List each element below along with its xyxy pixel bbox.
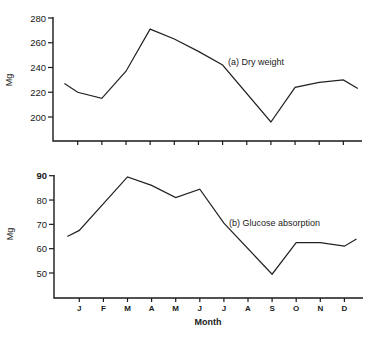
month-label: N: [317, 304, 323, 313]
y-tick-label: 260: [30, 37, 46, 48]
y-tick-label: 280: [30, 13, 46, 24]
y-axis-title-b: Mg: [5, 228, 15, 241]
month-label: A: [245, 304, 251, 313]
month-label: S: [269, 304, 275, 313]
month-label: O: [293, 304, 299, 313]
y-tick-label: 50: [36, 268, 47, 279]
month-label: D: [342, 304, 348, 313]
y-axis-title-a: Mg: [4, 74, 14, 87]
y-tick-label: 90: [36, 170, 47, 181]
month-label: M: [172, 304, 179, 313]
y-tick-label: 70: [36, 219, 47, 230]
month-label: M: [124, 304, 131, 313]
month-label: J: [77, 304, 81, 313]
series-label-glucose-absorption: (b) Glucose absorption: [229, 218, 320, 228]
month-label: F: [101, 304, 106, 313]
series-label-dry-weight: (a) Dry weight: [228, 57, 285, 67]
y-tick-label: 220: [30, 87, 46, 98]
figure: Mg 200220240260280 (a) Dry weight Mg 506…: [0, 0, 373, 337]
month-label: J: [222, 304, 226, 313]
month-label: A: [149, 304, 155, 313]
y-tick-label: 60: [36, 243, 47, 254]
y-tick-label: 200: [30, 112, 46, 123]
y-tick-label: 240: [30, 62, 46, 73]
figure-background: [0, 0, 373, 337]
x-axis-title: Month: [195, 317, 222, 327]
month-label: J: [198, 304, 202, 313]
y-tick-label: 80: [36, 195, 47, 206]
